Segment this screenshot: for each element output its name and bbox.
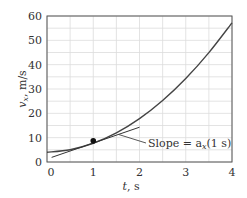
y-axis-label: vx, m/s [16, 70, 30, 108]
x-axis-label: t, s [122, 180, 139, 193]
grid-lines [47, 16, 232, 162]
data-point-dot [90, 138, 96, 144]
annotation-leader-line [119, 135, 146, 143]
y-tick-label: 10 [28, 132, 42, 145]
y-tick-label: 30 [28, 83, 42, 96]
x-tick-label: 4 [229, 166, 236, 179]
x-tick-label: 1 [90, 166, 97, 179]
x-tick-label: 2 [136, 166, 143, 179]
y-tick-label: 0 [35, 156, 42, 169]
y-tick-label: 60 [28, 10, 42, 23]
x-tick-label: 0 [48, 166, 55, 179]
y-tick-label: 20 [28, 107, 42, 120]
x-tick-label: 3 [182, 166, 189, 179]
annotation-label: Slope = ax(1 s) [148, 137, 231, 151]
x-axis-ticks: 01234 [48, 166, 236, 179]
velocity-time-chart: 0102030405060 01234 Slope = ax(1 s) t, s… [0, 0, 247, 198]
y-tick-label: 40 [28, 59, 42, 72]
y-tick-label: 50 [28, 34, 42, 47]
y-axis-ticks: 0102030405060 [28, 10, 42, 169]
